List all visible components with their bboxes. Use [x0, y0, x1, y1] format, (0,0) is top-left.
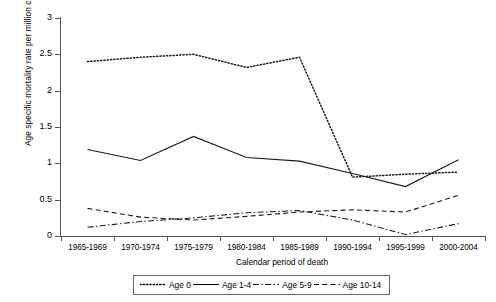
- series-line-age-5-9: [88, 211, 459, 235]
- chart-legend: Age 0Age 1-4Age 5-9Age 10-14: [133, 275, 390, 295]
- x-tick-label: 1985-1989: [270, 243, 330, 252]
- x-tick: [273, 236, 274, 241]
- x-axis-title-wrap: Calendar period of death: [0, 257, 496, 267]
- x-tick: [114, 236, 115, 241]
- y-axis-title: Age specific mortality rate per million …: [23, 0, 33, 165]
- x-tick-label: 1980-1984: [217, 243, 277, 252]
- legend-item-age-10-14[interactable]: Age 10-14: [314, 280, 384, 290]
- legend-swatch-solid-icon: [193, 281, 219, 288]
- x-tick: [326, 236, 327, 241]
- x-tick-label: 1970-1974: [111, 243, 171, 252]
- legend-label: Age 1-4: [219, 280, 253, 290]
- x-tick: [167, 236, 168, 241]
- x-tick: [61, 236, 62, 241]
- y-tick-label: 0.5: [0, 195, 52, 204]
- legend-item-age-5-9[interactable]: Age 5-9: [253, 280, 313, 290]
- x-tick: [379, 236, 380, 241]
- x-tick: [220, 236, 221, 241]
- y-tick-label: 1: [0, 158, 52, 167]
- x-tick: [485, 236, 486, 241]
- chart-container: Age specific mortality rate per million …: [0, 0, 496, 302]
- x-tick-label: 1995-1999: [376, 243, 436, 252]
- series-line-age-10-14: [88, 195, 459, 220]
- x-tick-label: 2000-2004: [429, 243, 489, 252]
- y-tick-label: 2: [0, 86, 52, 95]
- plot-area: [61, 18, 485, 236]
- legend-label: Age 10-14: [340, 280, 384, 290]
- legend-swatch-dashed-icon: [314, 281, 340, 288]
- series-line-age-1-4: [88, 136, 459, 186]
- legend-swatch-dash-dot-icon: [253, 281, 279, 288]
- legend-label: Age 5-9: [279, 280, 313, 290]
- legend-label: Age 0: [166, 280, 193, 290]
- x-tick-label: 1990-1994: [323, 243, 383, 252]
- y-tick-label: 2.5: [0, 49, 52, 58]
- y-tick-label: 3: [0, 13, 52, 22]
- y-tick-label: 1.5: [0, 122, 52, 131]
- x-tick-label: 1975-1979: [164, 243, 224, 252]
- legend-swatch-dotted-icon: [140, 281, 166, 288]
- y-tick-label: 0: [0, 231, 52, 240]
- legend-item-age-0[interactable]: Age 0: [140, 280, 193, 290]
- legend-item-age-1-4[interactable]: Age 1-4: [193, 280, 253, 290]
- x-tick-label: 1965-1969: [58, 243, 118, 252]
- x-axis-title: Calendar period of death: [236, 257, 328, 267]
- series-lines: [61, 18, 485, 236]
- x-tick: [432, 236, 433, 241]
